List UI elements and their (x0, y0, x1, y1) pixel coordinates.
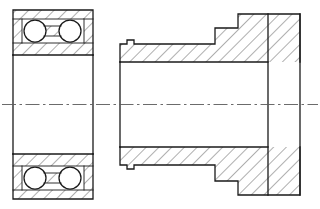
bearing-ball-top-right (59, 20, 81, 42)
bearing-ball-bottom-left (24, 167, 46, 189)
hub-top-hatch (115, 8, 305, 68)
bearing-ball-bottom-right (59, 167, 81, 189)
drawing-svg (0, 0, 320, 209)
hub-assembly (115, 8, 305, 202)
hub-bottom-hatch (115, 142, 305, 202)
bearing-top-half (10, 5, 100, 63)
hub-top-half (115, 8, 305, 68)
bearing-ball-top-left (24, 20, 46, 42)
technical-drawing-canvas (0, 0, 320, 209)
hub-bottom-half (115, 142, 305, 202)
bearing-assembly (10, 5, 100, 209)
bearing-bottom-half (10, 150, 100, 209)
